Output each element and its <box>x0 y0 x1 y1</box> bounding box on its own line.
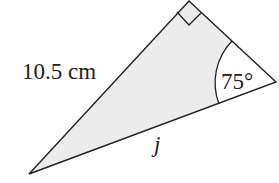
unknown-side-label: j <box>154 133 160 156</box>
angle-label: 75° <box>221 70 253 93</box>
side-length-label: 10.5 cm <box>22 60 96 83</box>
